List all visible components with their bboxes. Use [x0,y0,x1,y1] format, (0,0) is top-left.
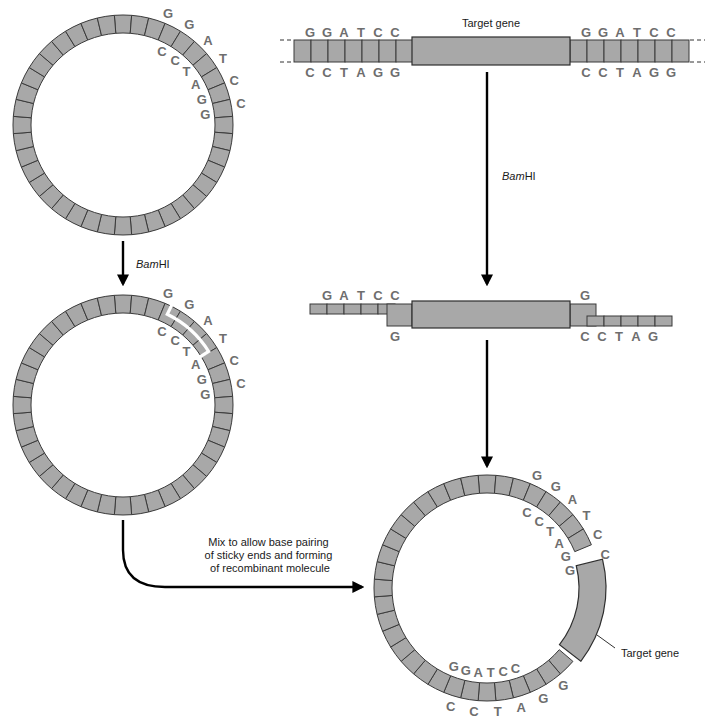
ring-segment [215,396,233,413]
base-letter-outer: A [568,492,578,507]
base-letter-outer: C [236,96,246,111]
base-letter-inner: G [200,387,210,402]
base-letter: G [373,65,383,80]
ring-segment [478,475,496,493]
sticky-end-cell [327,304,344,314]
dna-cell [379,40,396,62]
dna-cell [328,40,345,62]
base-letter-outer: C [601,547,611,562]
dna-cell [294,40,311,62]
base-letter-inner: A [191,77,201,92]
base-letter-outer: T [583,508,591,523]
ring-segment [114,217,131,235]
base-letter-inner: C [522,505,532,520]
ring-segment [114,497,131,515]
base-letter-outer: C [230,353,240,368]
sticky-end-cell [587,316,604,326]
base-letter: C [598,65,608,80]
base-letter-inner: G [538,691,548,706]
base-letter-outer: C [593,527,603,542]
dna-cell [570,40,587,62]
mix-caption: Mix to allow base pairing of sticky ends… [205,536,336,574]
base-letter: T [616,65,624,80]
base-letter: T [357,25,365,40]
base-letter-inner: C [171,333,181,348]
base-letter: T [633,25,641,40]
base-letter: C [322,65,332,80]
base-letter: A [631,329,641,344]
base-letter: G [390,329,400,344]
dna-cell [345,40,362,62]
ring-segment [215,116,233,133]
base-letter-outer: T [487,665,495,680]
base-letter: C [649,25,659,40]
base-letter-outer: A [473,665,483,680]
sticky-end-cell [361,304,378,314]
dna-cell [362,40,379,62]
base-letter-outer: G [449,659,459,674]
base-letter-inner: G [565,563,575,578]
base-letter-inner: G [558,678,568,693]
base-letter: A [356,65,366,80]
base-letter-inner: C [157,324,167,339]
base-letter: G [666,65,676,80]
base-letter-outer: T [219,51,227,66]
base-letter: G [580,288,590,303]
dna-cell [621,40,638,62]
base-letter: G [598,25,608,40]
dna-cell [638,40,655,62]
base-letter-outer: C [511,661,521,676]
base-letter-inner: C [535,514,545,529]
base-letter-inner: A [191,357,201,372]
base-letter: C [373,25,383,40]
base-letter-outer: G [461,663,471,678]
sticky-end-cell [310,304,327,314]
base-letter: G [322,288,332,303]
base-letter-inner: C [171,53,181,68]
sticky-end-cell [621,316,638,326]
base-letter: G [322,25,332,40]
ring-segment [13,116,31,133]
sticky-end-cell [655,316,672,326]
cut-plasmid-vector: GGATCCCCTAGG [13,286,246,515]
base-letter-outer: A [203,33,213,48]
base-letter-inner: T [183,344,191,359]
base-letter: T [340,65,348,80]
ring-segment [114,15,131,33]
base-letter-inner: T [546,524,554,539]
base-letter-outer: G [551,479,561,494]
base-letter: C [666,25,676,40]
target-gene-leader-line [597,635,615,648]
dna-cell [604,40,621,62]
base-letter-outer: A [203,313,213,328]
base-letter-inner: T [183,64,191,79]
base-letter: C [373,288,383,303]
base-letter: T [357,288,365,303]
ring-segment [13,396,31,413]
base-letter: G [390,65,400,80]
cut-target-gene-fragment: GATCCGGCCTAG [310,288,672,344]
base-letter: A [339,25,349,40]
dna-cell [387,304,412,326]
base-letter: A [339,288,349,303]
base-letter-inner: C [446,699,456,714]
base-letter-inner: G [561,549,571,564]
ring-segment [114,295,131,313]
base-letter-outer: G [163,286,173,301]
sticky-end-cell [604,316,621,326]
base-letter: C [581,65,591,80]
base-letter-outer: G [163,6,173,21]
enzyme-label-right: BamHI [502,170,536,182]
dna-cell [655,40,672,62]
base-letter: C [390,288,400,303]
base-letter: T [615,329,623,344]
base-letter: G [649,65,659,80]
dna-cell [587,40,604,62]
base-letter: G [581,25,591,40]
base-letter: A [632,65,642,80]
linear-dna-with-target-gene: Target geneGGATCCCCTAGGGGATCCCCTAGG [280,17,705,80]
base-letter-outer: G [532,468,542,483]
dna-cell [311,40,328,62]
ring-segment [478,683,496,701]
sticky-end-cell [344,304,361,314]
